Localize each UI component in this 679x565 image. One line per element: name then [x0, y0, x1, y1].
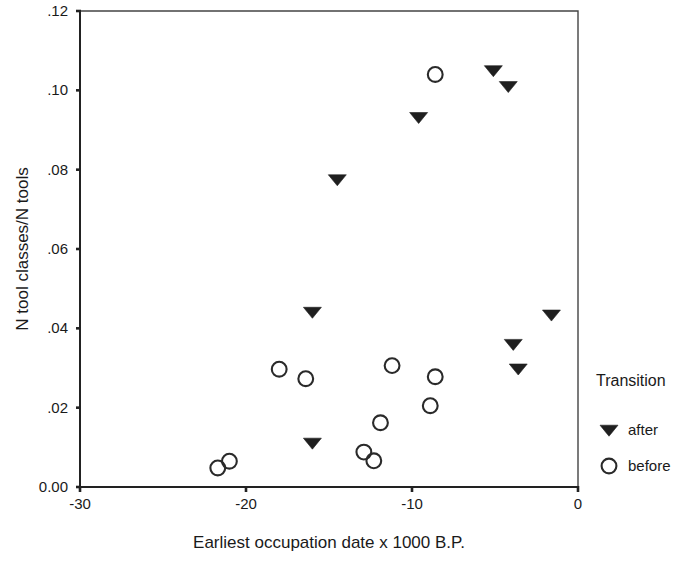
x-tick-label: -20 — [235, 495, 257, 512]
y-tick-label: .04 — [47, 319, 68, 336]
x-tick-label: 0 — [574, 495, 582, 512]
data-point-before: before: (-8.6, 0.104) — [428, 67, 443, 82]
y-tick-label: .10 — [47, 81, 68, 98]
data-point-before: before: (-16.4, 0.0273) — [298, 371, 313, 386]
legend-label-before: before — [628, 457, 671, 474]
data-point-after: after: (-14.5, 0.0775) — [328, 175, 346, 186]
y-tick-label: .02 — [47, 399, 68, 416]
legend: Transitionafterbefore — [596, 372, 671, 474]
data-point-after: after: (-16, 0.0111) — [303, 438, 321, 449]
data-point-after: after: (-3.6, 0.0298) — [509, 364, 527, 375]
series-after: after: (-16, 0.0111)after: (-16, 0.0441)… — [303, 66, 560, 449]
series-before: before: (-21.7, 0.0048)before: (-21, 0.0… — [210, 67, 442, 475]
legend-label-after: after — [628, 421, 658, 438]
x-tick-label: -30 — [69, 495, 91, 512]
plot-canvas: 0.00.02.04.06.08.10.12-30-20-100Earliest… — [0, 0, 679, 565]
data-point-after: after: (-3.9, 0.036) — [504, 339, 522, 350]
legend-marker-after — [600, 425, 618, 436]
data-point-before: before: (-11.9, 0.0162) — [373, 415, 388, 430]
legend-title: Transition — [596, 372, 666, 389]
data-point-before: before: (-8.9, 0.0205) — [423, 398, 438, 413]
y-tick-label: .12 — [47, 2, 68, 19]
data-point-after: after: (-5.1, 0.105) — [484, 66, 502, 77]
legend-marker-before — [602, 459, 617, 474]
data-point-after: after: (-16, 0.0441) — [303, 307, 321, 318]
data-point-before: before: (-21, 0.0065) — [222, 454, 237, 469]
data-point-before: before: (-8.6, 0.0278) — [428, 369, 443, 384]
y-tick-label: .08 — [47, 161, 68, 178]
y-tick-label: .06 — [47, 240, 68, 257]
data-point-after: after: (-9.6, 0.0932) — [410, 113, 428, 124]
y-tick-label: 0.00 — [39, 478, 68, 495]
data-point-before: before: (-11.2, 0.0306) — [385, 358, 400, 373]
data-point-after: after: (-4.2, 0.101) — [499, 82, 517, 93]
data-point-before: before: (-18, 0.0297) — [272, 362, 287, 377]
x-axis-title: Earliest occupation date x 1000 B.P. — [193, 533, 465, 552]
y-axis-title: N tool classes/N tools — [13, 167, 32, 330]
data-point-before: before: (-12.3, 0.0066) — [366, 453, 381, 468]
data-point-before: before: (-12.9, 0.0088) — [356, 445, 371, 460]
x-tick-label: -10 — [401, 495, 423, 512]
scatter-plot-figure: 0.00.02.04.06.08.10.12-30-20-100Earliest… — [0, 0, 679, 565]
data-point-after: after: (-1.6, 0.0434) — [542, 310, 560, 321]
